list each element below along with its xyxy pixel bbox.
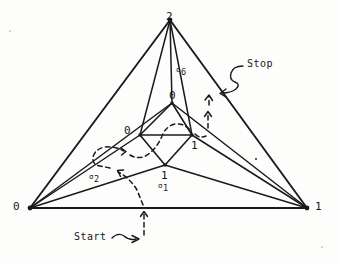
vertex-label-inner-right: 1 <box>191 140 198 151</box>
sigma-6-label: σ6 <box>176 66 186 76</box>
vertex-label-right: 1 <box>315 201 322 212</box>
line-apex-to-inner-left <box>140 20 170 135</box>
line-left-to-inner-top <box>30 103 172 208</box>
start-leader <box>112 234 139 242</box>
sigma-2-index: 2 <box>94 174 99 184</box>
vertex-label-inner-left: 0 <box>124 125 131 136</box>
sigma-1-symbol: σ <box>158 181 163 190</box>
dashed-segment-exit <box>195 134 206 137</box>
sigma-1-label: σ1 <box>158 182 168 192</box>
diagram-svg <box>0 0 338 263</box>
dashed-segment-middle <box>130 124 190 158</box>
vertex-label-left: 0 <box>13 201 20 212</box>
vertex-label-inner-top: 0 <box>169 90 176 101</box>
dashed-path <box>93 96 209 235</box>
vertex-label-inner-bottom: 1 <box>161 170 168 181</box>
scan-speck-2 <box>321 246 323 248</box>
sigma-6-index: 6 <box>181 67 186 77</box>
figure-canvas: 2 0 1 0 0 1 1 σ6 σ2 σ1 Start Stop <box>0 0 338 263</box>
vertex-dot-right <box>305 206 310 211</box>
vertex-dot-inner-right <box>190 133 193 136</box>
arrowhead-stop-up <box>205 95 213 101</box>
dashed-segment-lower <box>118 172 143 205</box>
sigma-2-label: σ2 <box>89 173 99 183</box>
sigma-2-symbol: σ <box>89 172 94 181</box>
scan-speck-1 <box>9 30 11 32</box>
line-right-to-inner-top <box>172 103 307 208</box>
line-left-to-inner-left <box>30 135 140 208</box>
line-right-to-inner-right <box>192 135 307 208</box>
edge-right <box>170 20 307 208</box>
edge-left <box>30 20 170 208</box>
start-label: Start <box>74 232 107 242</box>
subdivision-lines <box>30 20 307 208</box>
inner-edge-right-bottom <box>165 135 192 165</box>
sigma-1-index: 1 <box>163 183 168 193</box>
stray-dot <box>255 158 257 160</box>
line-left-to-inner-bottom <box>30 165 165 208</box>
line-right-to-inner-bottom <box>165 165 307 208</box>
stop-label: Stop <box>247 59 273 69</box>
vertex-dot-left <box>28 206 33 211</box>
stop-leader <box>220 66 243 97</box>
vertex-dot-inner-bottom <box>163 163 166 166</box>
vertex-label-apex: 2 <box>166 11 173 22</box>
sigma-6-symbol: σ <box>176 65 181 74</box>
vertex-dot-inner-left <box>138 133 141 136</box>
